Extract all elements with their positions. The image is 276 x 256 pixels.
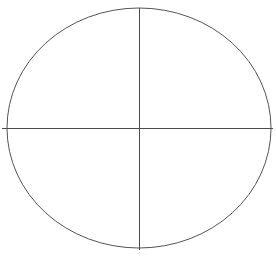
diagram-canvas: Quartered circle diagram (0, 0, 276, 256)
quartered-circle-figure: Quartered circle diagram (0, 0, 276, 256)
